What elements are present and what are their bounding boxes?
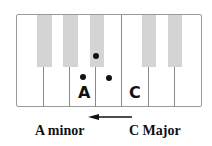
note-dot (106, 75, 112, 81)
key-label-a: A (78, 85, 90, 101)
key-label-c: C (129, 85, 141, 101)
black-key (37, 15, 52, 67)
black-key (168, 15, 182, 67)
left-arrow-icon (88, 114, 132, 120)
note-dot (93, 53, 99, 59)
black-key (142, 15, 156, 67)
caption-c-major: C Major (129, 123, 181, 139)
piano-keyboard: A C (16, 14, 202, 107)
black-key (90, 15, 104, 67)
caption-a-minor: A minor (35, 123, 84, 139)
note-dot (80, 74, 86, 80)
black-key (63, 15, 78, 67)
